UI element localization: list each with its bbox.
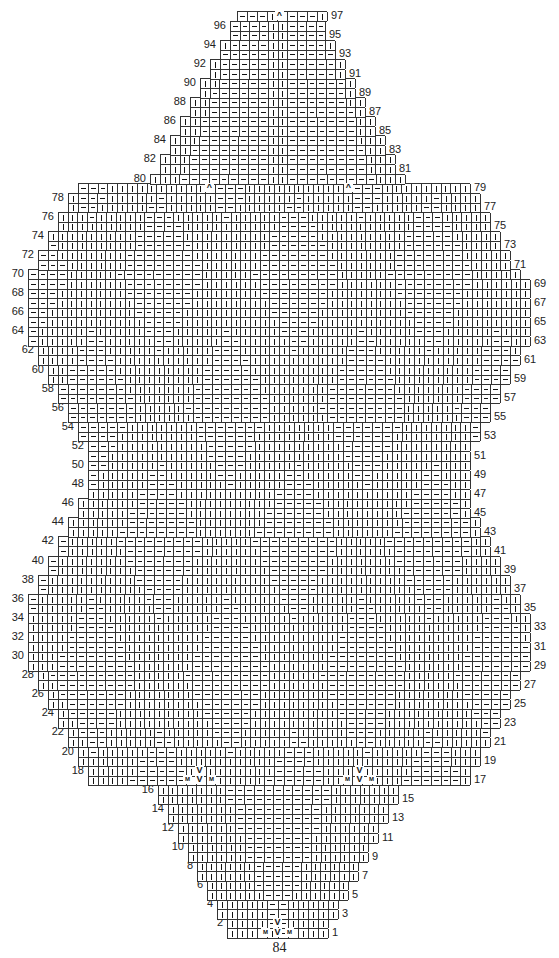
stitch-cell: [127, 423, 137, 432]
stitch-cell: [349, 824, 359, 833]
stitch-cell: [394, 404, 404, 413]
stitch-cell: [343, 490, 353, 499]
stitch-cell: [433, 289, 443, 298]
stitch-cell: [235, 843, 244, 852]
stitch-cell: [210, 60, 220, 69]
stitch-cell: [125, 394, 135, 403]
stitch-cell: [96, 241, 106, 250]
stitch-cell: [349, 853, 358, 862]
stitch-cell: [269, 404, 279, 413]
stitch-cell: [424, 652, 434, 661]
stitch-cell: [350, 795, 360, 804]
stitch-cell: [313, 432, 323, 441]
stitch-cell: [491, 337, 501, 346]
stitch-cell: [288, 270, 298, 279]
stitch-cell: [311, 843, 320, 852]
stitch-cell: [96, 681, 106, 690]
stitch-cell: [375, 604, 385, 613]
stitch-cell: [356, 547, 366, 556]
stitch-cell: [278, 89, 288, 98]
stitch-cell: [340, 843, 349, 852]
stitch-cell: [96, 394, 106, 403]
stitch-cell: [48, 557, 58, 566]
stitch-cell: [443, 585, 453, 594]
stitch-cell: [207, 891, 216, 900]
stitch-cell: [404, 356, 414, 365]
stitch-cell: [339, 872, 348, 881]
stitch-cell: [38, 604, 48, 613]
stitch-cell: [462, 327, 472, 336]
stitch-cell: [289, 671, 299, 680]
stitch-cell: [192, 681, 202, 690]
stitch-cell: [168, 786, 178, 795]
stitch-cell: [221, 681, 231, 690]
stitch-cell: [239, 60, 249, 69]
stitch-cell: [340, 814, 350, 823]
stitch-cell: [294, 767, 304, 776]
stitch-cell: [411, 480, 421, 489]
stitch-cell: [362, 203, 372, 212]
stitch-cell: [284, 442, 294, 451]
chart-row-26: [48, 689, 510, 700]
stitch-cell: [452, 719, 462, 728]
stitch-cell: [323, 748, 333, 757]
stitch-cell: [337, 671, 347, 680]
stitch-cell: [77, 709, 87, 718]
stitch-cell: [490, 385, 500, 394]
stitch-cell: [144, 719, 154, 728]
stitch-cell: [190, 136, 200, 145]
stitch-cell: [249, 60, 259, 69]
stitch-cell: [98, 452, 108, 461]
stitch-cell: [225, 872, 234, 881]
stitch-cell: [413, 557, 423, 566]
stitch-cell: [221, 595, 231, 604]
stitch-cell: [57, 633, 67, 642]
stitch-cell: [182, 576, 192, 585]
stitch-cell: [154, 366, 164, 375]
stitch-cell: [127, 480, 137, 489]
stitch-cell: [196, 490, 206, 499]
stitch-cell: [356, 595, 366, 604]
stitch-cell: [411, 748, 421, 757]
stitch-cell: [298, 681, 308, 690]
stitch-cell: [308, 719, 318, 728]
stitch-cell: [77, 385, 87, 394]
stitch-cell: [154, 738, 164, 747]
stitch-cell: [183, 566, 193, 575]
stitch-cell: [134, 261, 144, 270]
stitch-cell: [356, 385, 366, 394]
stitch-cell: [433, 318, 443, 327]
stitch-cell: [460, 194, 470, 203]
stitch-cell: [294, 461, 304, 470]
stitch-cell: [231, 652, 241, 661]
stitch-cell: [279, 700, 289, 709]
stitch-cell: [98, 767, 108, 776]
stitch-cell: [264, 795, 274, 804]
stitch-cell: [168, 805, 178, 814]
row-border: [365, 98, 366, 107]
stitch-cell: [240, 213, 250, 222]
row-number-label: 96: [204, 20, 226, 31]
stitch-cell: [340, 853, 349, 862]
stitch-cell: [491, 270, 501, 279]
stitch-cell: [137, 203, 147, 212]
stitch-cell: [96, 337, 106, 346]
stitch-cell: [330, 824, 340, 833]
stitch-cell: [186, 442, 196, 451]
stitch-cell: [268, 22, 278, 31]
stitch-cell: [260, 547, 270, 556]
stitch-cell: [311, 872, 320, 881]
stitch-cell: [258, 98, 268, 107]
stitch-cell: [125, 318, 135, 327]
stitch-cell: [433, 700, 443, 709]
stitch-cell: [433, 270, 443, 279]
stitch-cell: [76, 318, 86, 327]
stitch-cell: [274, 509, 284, 518]
row-border: [470, 490, 471, 499]
stitch-cell: [452, 738, 462, 747]
stitch-cell: [303, 471, 313, 480]
stitch-cell: [443, 671, 453, 680]
stitch-cell: [38, 327, 48, 336]
stitch-cell: [231, 547, 241, 556]
stitch-cell: [278, 127, 288, 136]
